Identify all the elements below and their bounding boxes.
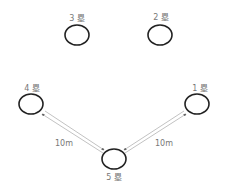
- connection-5-1: 10m: [124, 111, 186, 153]
- base-5-label: 5 塁: [106, 173, 122, 182]
- base-3: 3 塁: [65, 14, 89, 45]
- base-2: 2 塁: [148, 13, 172, 45]
- base-2-circle: [148, 25, 172, 45]
- base-4: 4 塁: [19, 84, 43, 114]
- connection-4-5: 10m: [42, 111, 104, 153]
- arrow-1-to-5: [124, 111, 184, 150]
- base-4-label: 4 塁: [24, 84, 40, 93]
- base-1-label: 1 塁: [192, 84, 208, 93]
- distance-label-4-5: 10m: [55, 139, 73, 148]
- base-5: 5 塁: [102, 149, 126, 182]
- arrow-4-to-5: [45, 111, 104, 150]
- base-1: 1 塁: [185, 84, 209, 114]
- base-diagram: 3 塁 2 塁 4 塁 1 塁 5 塁 10m 10m: [0, 0, 225, 194]
- base-3-circle: [65, 25, 89, 45]
- base-2-label: 2 塁: [153, 13, 169, 22]
- base-1-circle: [185, 94, 209, 114]
- distance-label-5-1: 10m: [155, 139, 173, 148]
- base-3-label: 3 塁: [69, 14, 85, 23]
- base-5-circle: [102, 149, 126, 169]
- base-4-circle: [19, 94, 43, 114]
